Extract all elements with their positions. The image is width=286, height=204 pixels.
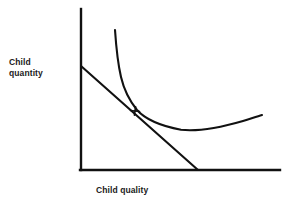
y-axis-label-line2: quantity — [9, 68, 43, 78]
figure-container: Childquantity Child quality — [0, 0, 286, 204]
y-axis-label-line1: Child — [9, 57, 31, 67]
budget-line — [81, 66, 198, 170]
x-axis-label: Child quality — [96, 185, 216, 196]
y-axis-label: Childquantity — [9, 57, 71, 79]
tangency-mark-icon — [131, 107, 140, 115]
economics-plot — [0, 0, 286, 204]
